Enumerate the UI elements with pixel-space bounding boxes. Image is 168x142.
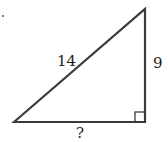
triangle-diagram: 14 9 ?	[0, 0, 168, 142]
vertical-leg-label: 9	[153, 54, 163, 72]
horizontal-leg-label: ?	[76, 124, 84, 142]
right-angle-marker	[135, 112, 145, 122]
hypotenuse-label: 14	[57, 52, 76, 70]
stray-dot	[2, 15, 4, 17]
triangle-shape	[14, 9, 145, 122]
